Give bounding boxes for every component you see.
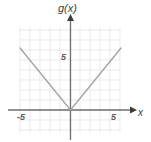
x-axis-label: x (138, 108, 143, 118)
y-axis-arrowhead (67, 14, 74, 21)
y-tick-label-5: 5 (61, 53, 66, 62)
x-tick-label-neg5: -5 (17, 113, 25, 122)
x-axis-arrowhead (130, 107, 137, 114)
x-tick-label-5: 5 (111, 113, 116, 122)
graph-figure: g(x) x 5 5 -5 (0, 0, 151, 142)
y-axis-label: g(x) (58, 3, 77, 14)
